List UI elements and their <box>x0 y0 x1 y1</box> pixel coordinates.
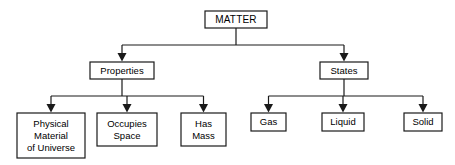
connector-properties-to-children <box>47 79 209 113</box>
node-states-label: States <box>331 65 358 76</box>
node-matter-label: MATTER <box>215 14 257 25</box>
connector-states-to-children <box>264 79 428 113</box>
node-physical-material-of-universe-line-3: of Universe <box>27 142 75 153</box>
arrow-head-physical-material <box>47 104 56 113</box>
node-properties: Properties <box>90 62 154 79</box>
node-occupies-space-line-2: Space <box>114 130 141 141</box>
arrow-head-properties <box>118 53 127 62</box>
arrow-head-gas <box>264 104 273 113</box>
arrow-head-has-mass <box>199 104 208 113</box>
node-gas: Gas <box>251 113 286 131</box>
node-solid-label: Solid <box>412 116 433 127</box>
node-physical-material-of-universe-line-1: Physical <box>33 118 68 129</box>
node-properties-label: Properties <box>100 65 144 76</box>
arrow-head-solid <box>419 104 428 113</box>
node-occupies-space: Occupies Space <box>97 113 157 146</box>
node-gas-label: Gas <box>260 116 278 127</box>
node-liquid-label: Liquid <box>330 116 355 127</box>
node-has-mass-line-1: Has <box>195 118 212 129</box>
connector-matter-to-level2 <box>118 28 349 62</box>
node-states: States <box>320 62 368 79</box>
node-physical-material-of-universe: Physical Material of Universe <box>17 113 85 158</box>
node-physical-material-of-universe-line-2: Material <box>34 130 68 141</box>
arrow-head-occupies-space <box>123 104 132 113</box>
arrow-head-states <box>340 53 349 62</box>
node-liquid: Liquid <box>322 113 364 131</box>
matter-concept-map: MATTER Properties States Physical Materi… <box>0 0 455 165</box>
flowchart-canvas: MATTER Properties States Physical Materi… <box>0 0 455 165</box>
node-occupies-space-line-1: Occupies <box>107 118 147 129</box>
node-has-mass: Has Mass <box>181 113 226 146</box>
node-has-mass-line-2: Mass <box>192 130 215 141</box>
node-solid: Solid <box>404 113 442 131</box>
arrow-head-liquid <box>339 104 348 113</box>
node-matter: MATTER <box>205 11 267 28</box>
